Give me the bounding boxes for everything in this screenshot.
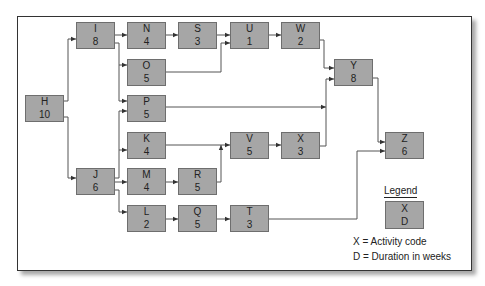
node-code: I: [94, 24, 97, 34]
node-H: H10: [25, 95, 64, 122]
node-W: W2: [281, 22, 320, 49]
node-duration: 3: [247, 220, 253, 230]
node-L: L2: [127, 205, 166, 232]
node-code: Y: [350, 61, 357, 71]
node-duration: 5: [144, 74, 150, 84]
legend-line-activity-code: X = Activity code: [353, 236, 427, 247]
node-J: J6: [76, 168, 115, 195]
node-code: Z: [401, 134, 407, 144]
legend-box-top: X: [401, 204, 408, 214]
node-Z: Z6: [385, 132, 424, 159]
node-N: N4: [127, 22, 166, 49]
node-duration: 5: [195, 183, 201, 193]
node-code: L: [144, 207, 150, 217]
node-R: R5: [178, 168, 217, 195]
node-code: W: [296, 24, 305, 34]
node-duration: 5: [144, 110, 150, 120]
node-O: O5: [127, 59, 166, 86]
node-duration: 2: [144, 220, 150, 230]
node-code: M: [142, 170, 150, 180]
node-U: U1: [230, 22, 269, 49]
node-duration: 1: [247, 37, 253, 47]
node-duration: 2: [298, 37, 304, 47]
node-X: X3: [281, 132, 320, 159]
legend-title: Legend: [384, 185, 417, 198]
node-duration: 4: [144, 37, 150, 47]
node-duration: 4: [144, 183, 150, 193]
node-code: S: [194, 24, 201, 34]
node-M: M4: [127, 168, 166, 195]
node-Q: Q5: [178, 205, 217, 232]
node-P: P5: [127, 95, 166, 122]
node-duration: 5: [195, 220, 201, 230]
node-code: O: [143, 61, 151, 71]
legend-line-duration: D = Duration in weeks: [353, 251, 451, 262]
node-I: I8: [76, 22, 115, 49]
node-K: K4: [127, 132, 166, 159]
node-code: K: [143, 134, 150, 144]
node-code: H: [41, 97, 48, 107]
node-duration: 8: [351, 74, 357, 84]
node-duration: 10: [39, 110, 50, 120]
legend-box-bottom: D: [401, 217, 408, 227]
node-duration: 5: [247, 147, 253, 157]
node-duration: 3: [195, 37, 201, 47]
node-T: T3: [230, 205, 269, 232]
node-code: T: [246, 207, 252, 217]
node-code: Q: [194, 207, 202, 217]
legend-sample-node: X D: [385, 201, 424, 229]
node-code: R: [194, 170, 201, 180]
node-duration: 6: [93, 183, 99, 193]
node-duration: 4: [144, 147, 150, 157]
node-Y: Y8: [334, 59, 373, 86]
node-duration: 3: [298, 147, 304, 157]
node-code: J: [93, 170, 98, 180]
node-code: P: [143, 97, 150, 107]
node-duration: 6: [402, 147, 408, 157]
node-S: S3: [178, 22, 217, 49]
node-duration: 8: [93, 37, 99, 47]
node-V: V5: [230, 132, 269, 159]
node-code: V: [246, 134, 253, 144]
node-code: U: [246, 24, 253, 34]
node-code: X: [297, 134, 304, 144]
node-code: N: [143, 24, 150, 34]
